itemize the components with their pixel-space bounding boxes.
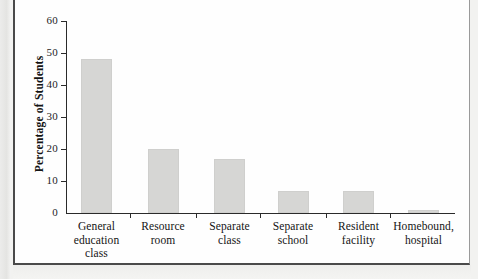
x-tick-mark (260, 213, 261, 218)
y-tick-label: 50 (12, 46, 58, 58)
y-axis-line (66, 21, 67, 214)
bar (408, 210, 439, 213)
bar (81, 59, 112, 213)
y-tick-label: 10 (12, 174, 58, 186)
y-tick-mark (61, 181, 66, 182)
y-tick-label: 30 (12, 110, 58, 122)
x-tick-mark (196, 213, 197, 218)
x-axis-label-line: hospital (381, 234, 467, 248)
y-tick-label: 60 (12, 14, 58, 26)
x-tick-mark (390, 213, 391, 218)
y-tick-mark (61, 21, 66, 22)
x-tick-mark (130, 213, 131, 218)
y-tick-label: 40 (12, 78, 58, 90)
bar (343, 191, 374, 213)
x-tick-mark (326, 213, 327, 218)
figure-root: Percentage of Students 0102030405060 Gen… (0, 0, 478, 279)
y-tick-label: 20 (12, 142, 58, 154)
bar (148, 149, 179, 213)
bar (214, 159, 245, 213)
bar-chart-plot: Percentage of Students 0102030405060 Gen… (0, 0, 478, 279)
x-axis-label-line: class (54, 247, 140, 261)
y-tick-label: 0 (12, 206, 58, 218)
x-axis-label-line: Homebound, (381, 220, 467, 234)
y-tick-mark (61, 53, 66, 54)
y-tick-mark (61, 85, 66, 86)
y-tick-mark (61, 117, 66, 118)
y-tick-mark (61, 149, 66, 150)
x-axis-label: Homebound,hospital (381, 220, 467, 247)
bar (278, 191, 309, 213)
